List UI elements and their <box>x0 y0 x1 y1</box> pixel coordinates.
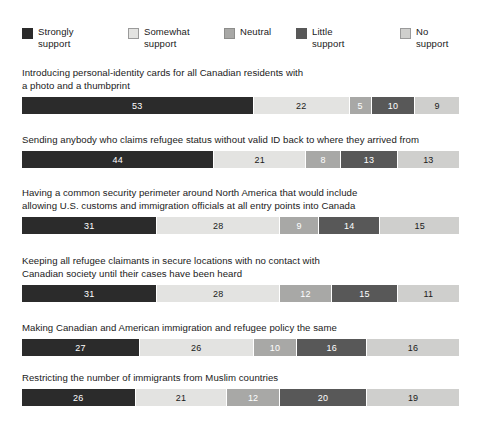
legend-item-somewhat-support[interactable]: Somewhat support <box>128 26 190 49</box>
bar-segment-value: 11 <box>424 289 434 299</box>
bar-segment-value: 53 <box>132 101 142 111</box>
bar-segment[interactable]: 8 <box>306 151 341 168</box>
legend-label-no-support: No support <box>416 26 462 49</box>
bar-segment[interactable]: 28 <box>157 217 279 234</box>
legend-swatch-no-support-icon <box>400 28 411 39</box>
bar-segment-value: 8 <box>320 155 325 165</box>
bar-segment-value: 16 <box>327 343 337 353</box>
bar-segment-value: 14 <box>344 221 354 231</box>
bar-segment[interactable]: 21 <box>136 389 228 406</box>
question-group-muslim-countries: Restricting the number of immigrants fro… <box>22 371 459 406</box>
legend-label-strongly-support: Strongly support <box>38 26 74 49</box>
bar-segment[interactable]: 10 <box>372 97 416 114</box>
bar-segment[interactable]: 9 <box>415 97 459 114</box>
bar-segment[interactable]: 5 <box>350 97 372 114</box>
bar-segment[interactable]: 19 <box>367 389 459 406</box>
bar-segment-value: 15 <box>359 289 369 299</box>
question-group-secure-locations: Keeping all refugee claimants in secure … <box>22 254 459 302</box>
bar-segment-value: 12 <box>248 393 258 403</box>
bar-segment[interactable]: 31 <box>22 217 157 234</box>
bar-segment-value: 10 <box>388 101 398 111</box>
legend-swatch-neutral-icon <box>224 28 235 39</box>
stacked-bar: 442181313 <box>22 151 459 168</box>
bar-segment[interactable]: 20 <box>280 389 367 406</box>
bar-segment-value: 26 <box>191 343 201 353</box>
bar-segment-value: 15 <box>414 221 424 231</box>
bar-segment[interactable]: 21 <box>214 151 306 168</box>
question-text: Having a common security perimeter aroun… <box>22 186 459 212</box>
stacked-bar: 312891415 <box>22 217 459 234</box>
bar-segment-value: 31 <box>84 289 94 299</box>
bar-segment[interactable]: 26 <box>22 389 136 406</box>
bar-segment[interactable]: 16 <box>367 339 459 356</box>
bar-segment-value: 13 <box>423 155 433 165</box>
bar-segment-value: 19 <box>408 393 418 403</box>
bar-segment-value: 9 <box>296 221 301 231</box>
bar-segment[interactable]: 26 <box>140 339 254 356</box>
bar-segment[interactable]: 14 <box>319 217 380 234</box>
stacked-bar: 3128121511 <box>22 285 459 302</box>
question-text: Keeping all refugee claimants in secure … <box>22 254 459 280</box>
chart-legend: Strongly supportSomewhat supportNeutralL… <box>22 26 462 60</box>
bar-segment-value: 20 <box>318 393 328 403</box>
stacked-bar-chart: Strongly supportSomewhat supportNeutralL… <box>0 0 477 421</box>
bar-segment[interactable]: 44 <box>22 151 214 168</box>
bar-segment-value: 16 <box>408 343 418 353</box>
bar-segment[interactable]: 22 <box>254 97 350 114</box>
bar-segment[interactable]: 16 <box>297 339 367 356</box>
question-group-security-perimeter: Having a common security perimeter aroun… <box>22 186 459 234</box>
question-group-refugee-no-valid-id: Sending anybody who claims refugee statu… <box>22 133 459 168</box>
stacked-bar: 2621122019 <box>22 389 459 406</box>
question-group-same-policy: Making Canadian and American immigration… <box>22 321 459 356</box>
question-text: Making Canadian and American immigration… <box>22 321 459 334</box>
bar-segment[interactable]: 9 <box>280 217 319 234</box>
bar-segment-value: 10 <box>270 343 280 353</box>
bar-segment-value: 44 <box>112 155 122 165</box>
bar-segment-value: 9 <box>435 101 440 111</box>
bar-segment-value: 21 <box>254 155 264 165</box>
bar-segment[interactable]: 53 <box>22 97 254 114</box>
bar-segment-value: 26 <box>73 393 83 403</box>
bar-segment-value: 28 <box>213 289 223 299</box>
bar-segment-value: 27 <box>75 343 85 353</box>
bar-segment-value: 22 <box>296 101 306 111</box>
legend-item-no-support[interactable]: No support <box>400 26 462 49</box>
bar-segment-value: 21 <box>176 393 186 403</box>
bar-segment[interactable]: 31 <box>22 285 157 302</box>
legend-swatch-somewhat-support-icon <box>128 28 139 39</box>
bar-segment[interactable]: 12 <box>227 389 279 406</box>
question-text: Introducing personal-identity cards for … <box>22 66 459 92</box>
bar-segment[interactable]: 10 <box>254 339 298 356</box>
legend-label-little-support: Little support <box>312 26 344 49</box>
bar-segment-value: 13 <box>364 155 374 165</box>
bar-segment-value: 5 <box>358 101 363 111</box>
question-group-identity-cards: Introducing personal-identity cards for … <box>22 66 459 114</box>
bar-segment[interactable]: 28 <box>157 285 279 302</box>
legend-label-neutral: Neutral <box>240 26 271 38</box>
bar-segment[interactable]: 12 <box>280 285 332 302</box>
bar-segment[interactable]: 15 <box>332 285 398 302</box>
bar-segment[interactable]: 15 <box>380 217 459 234</box>
bar-segment-value: 28 <box>213 221 223 231</box>
legend-label-somewhat-support: Somewhat support <box>144 26 190 49</box>
bar-segment-value: 12 <box>300 289 310 299</box>
legend-item-strongly-support[interactable]: Strongly support <box>22 26 74 49</box>
stacked-bar: 2726101616 <box>22 339 459 356</box>
bar-segment[interactable]: 13 <box>398 151 459 168</box>
legend-swatch-little-support-icon <box>296 28 307 39</box>
legend-item-neutral[interactable]: Neutral <box>224 26 271 39</box>
bar-segment[interactable]: 13 <box>341 151 398 168</box>
bar-segment[interactable]: 11 <box>398 285 459 302</box>
legend-swatch-strongly-support-icon <box>22 28 33 39</box>
question-text: Sending anybody who claims refugee statu… <box>22 133 459 146</box>
stacked-bar: 53225109 <box>22 97 459 114</box>
question-text: Restricting the number of immigrants fro… <box>22 371 459 384</box>
bar-segment[interactable]: 27 <box>22 339 140 356</box>
bar-segment-value: 31 <box>84 221 94 231</box>
legend-item-little-support[interactable]: Little support <box>296 26 344 49</box>
